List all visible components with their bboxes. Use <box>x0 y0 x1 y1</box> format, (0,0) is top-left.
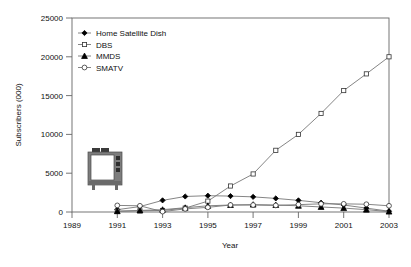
y-tick-label-15000: 15000 <box>41 92 64 101</box>
x-tick-label-1997: 1997 <box>244 221 262 230</box>
x-tick-label-1991: 1991 <box>108 221 126 230</box>
data-point-marker <box>296 202 301 207</box>
x-tick-label-2003: 2003 <box>380 221 398 230</box>
data-point-marker <box>251 172 255 176</box>
data-point-marker <box>205 205 210 210</box>
television-set-illustration <box>88 148 122 190</box>
data-point-marker <box>387 55 391 59</box>
x-tick-label-1999: 1999 <box>290 221 308 230</box>
x-tick-label-1993: 1993 <box>154 221 172 230</box>
data-point-marker <box>82 42 86 46</box>
data-point-marker <box>364 202 369 207</box>
data-point-marker <box>228 184 232 188</box>
chart-container: 0 5000 10000 15000 20000 25000 Subscribe… <box>0 0 411 267</box>
data-point-marker <box>183 206 188 211</box>
data-point-marker <box>273 203 278 208</box>
data-point-marker <box>342 88 346 92</box>
legend-label-home-satellite-dish: Home Satellite Dish <box>96 29 166 38</box>
legend-label-mmds: MMDS <box>96 52 120 61</box>
y-tick-label-0: 0 <box>59 208 64 217</box>
data-point-marker <box>251 203 256 208</box>
y-axis-title: Subscribers (000) <box>14 83 23 146</box>
y-tick-label-5000: 5000 <box>45 169 63 178</box>
data-point-marker <box>319 201 324 206</box>
data-point-marker <box>138 203 143 208</box>
x-tick-label-2001: 2001 <box>335 221 353 230</box>
data-point-marker <box>341 201 346 206</box>
data-point-marker <box>296 132 300 136</box>
y-tick-label-20000: 20000 <box>41 53 64 62</box>
y-tick-label-10000: 10000 <box>41 130 64 139</box>
legend-label-dbs: DBS <box>96 41 112 50</box>
data-point-marker <box>274 148 278 152</box>
x-tick-label-1995: 1995 <box>199 221 217 230</box>
x-axis-title: Year <box>222 241 239 250</box>
x-tick-label-1989: 1989 <box>63 221 81 230</box>
data-point-marker <box>364 72 368 76</box>
data-point-marker <box>387 203 392 208</box>
y-tick-label-25000: 25000 <box>41 14 64 23</box>
data-point-marker <box>82 65 87 70</box>
legend-label-smatv: SMATV <box>96 64 124 73</box>
data-point-marker <box>115 203 120 208</box>
line-chart: 0 5000 10000 15000 20000 25000 Subscribe… <box>0 0 411 267</box>
data-point-marker <box>228 203 233 208</box>
data-point-marker <box>160 209 165 214</box>
x-axis: 1989 1991 1993 1995 1997 1999 2001 2003 <box>63 212 398 230</box>
y-axis: 0 5000 10000 15000 20000 25000 <box>41 14 72 217</box>
data-point-marker <box>319 111 323 115</box>
